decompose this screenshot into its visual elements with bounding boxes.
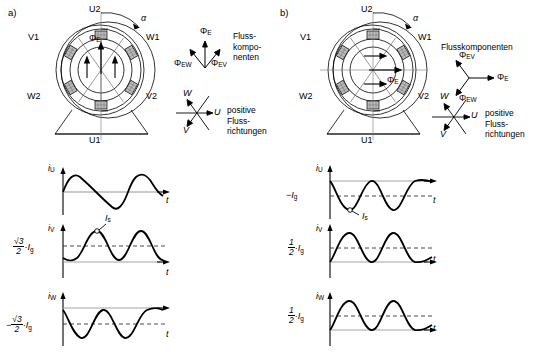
flux-components-caption-b: Flusskomponenten	[441, 42, 513, 53]
axis-v-label-a: V	[183, 126, 189, 135]
plot-iv-b-offset-label: 12·Ig	[288, 238, 304, 258]
panel-a: a)	[0, 0, 272, 354]
angle-label-b: α	[413, 14, 418, 23]
axis-w-label-b: W	[440, 92, 449, 101]
plot-iv-a-offset-label: √32·Ig	[13, 237, 34, 257]
plot-iu-b-offset-label: −Ig	[286, 190, 297, 200]
plot-iv-b	[272, 222, 544, 284]
plot-iw-a	[0, 290, 272, 352]
panel-b: b)	[272, 0, 544, 354]
plot-iu-b	[272, 163, 544, 225]
terminal-w1-b: W1	[418, 33, 432, 42]
plot-iu-b-peak-label: Is	[362, 212, 368, 222]
plot-iu-a-xlabel: t	[166, 196, 169, 205]
angle-arc-b	[373, 13, 410, 26]
plot-iw-a-xlabel: t	[166, 330, 169, 339]
plot-iw-a-offset-label: −√32·Ig	[6, 315, 32, 335]
plot-iv-b-xlabel: t	[433, 255, 436, 264]
axis-u-label-a: U	[214, 108, 221, 117]
terminal-u2-b: U2	[361, 5, 373, 14]
axis-v-label-b: V	[440, 130, 446, 139]
positive-directions-caption-b: positive Fluss- richtungen	[485, 108, 525, 140]
plot-iv-a-peak-label: Is	[105, 214, 111, 224]
flux-components-caption-a: Fluss- kompo- nenten	[233, 31, 261, 63]
plot-iw-b-xlabel: t	[433, 324, 436, 333]
terminal-u2-a: U2	[89, 5, 101, 14]
positive-directions-caption-a: positive Fluss- richtungen	[227, 105, 267, 137]
plot-iv-a	[0, 222, 272, 284]
axis-u-label-b: U	[471, 111, 478, 120]
axis-w-label-a: W	[183, 89, 192, 98]
terminal-v1-b: V1	[300, 33, 311, 42]
plot-iu-a	[0, 163, 272, 223]
plot-iw-b-offset-label: 12·Ig	[288, 306, 304, 326]
plot-iv-a-xlabel: t	[166, 268, 169, 277]
plot-iu-b-xlabel: t	[433, 196, 436, 205]
plot-iw-b	[272, 290, 544, 352]
